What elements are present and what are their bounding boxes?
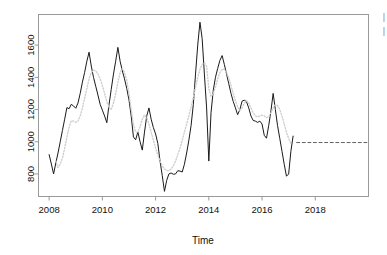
y-tick-label: 1200	[25, 99, 36, 120]
right-edge-mark-bottom: |	[383, 26, 385, 36]
x-tick-label: 2008	[39, 204, 60, 215]
x-tick-label: 2014	[198, 204, 219, 215]
y-tick-label: 800	[25, 166, 36, 182]
x-axis: 200820102012201420162018	[39, 197, 326, 215]
series-observed	[49, 22, 293, 191]
x-tick-label: 2016	[251, 204, 272, 215]
y-tick-label: 1400	[25, 67, 36, 88]
right-edge-mark-top: |	[383, 12, 385, 22]
series-fitted	[56, 63, 291, 171]
timeseries-plot: 8001000120014001600 20082010201220142016…	[0, 0, 387, 255]
plot-frame	[39, 15, 369, 197]
y-tick-label: 1000	[25, 131, 36, 152]
y-tick-label: 1600	[25, 35, 36, 56]
x-tick-label: 2012	[145, 204, 166, 215]
series-layer	[49, 22, 368, 191]
x-tick-label: 2010	[92, 204, 113, 215]
x-tick-label: 2018	[305, 204, 326, 215]
y-axis: 8001000120014001600	[25, 35, 39, 182]
x-axis-title: Time	[192, 235, 214, 246]
chart-figure: 8001000120014001600 20082010201220142016…	[0, 0, 387, 255]
